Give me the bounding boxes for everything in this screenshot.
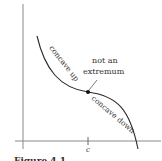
annotation-line-1: not an (92, 56, 118, 65)
annotation-line-2: extremum (83, 67, 125, 76)
inflection-point-diagram: c not an extremum concave up concave dow… (0, 0, 162, 161)
x-tick-label: c (86, 146, 90, 154)
figure-caption: Figure 4.1 (14, 156, 66, 161)
concave-up-label: concave up (47, 44, 81, 84)
annotation-leader (89, 80, 97, 90)
inflection-point (86, 90, 90, 94)
